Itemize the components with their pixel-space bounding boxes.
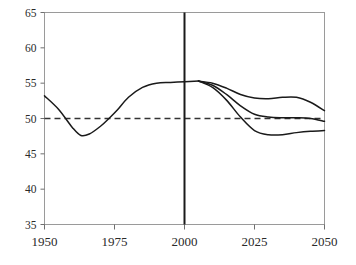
y-axis-tick-label: 40	[25, 183, 37, 195]
x-axis-tick-label: 2000	[172, 234, 198, 249]
y-axis-tick-label: 45	[25, 148, 37, 160]
y-axis-tick-label: 60	[25, 42, 37, 54]
x-axis-tick-label: 1950	[32, 234, 58, 249]
y-axis-tick-label: 65	[25, 7, 37, 19]
x-axis-tick-label: 2050	[312, 234, 338, 249]
y-axis-tick-label: 55	[25, 77, 37, 89]
y-axis-tick-label: 35	[25, 219, 37, 231]
chart-container: 35404550556065 19501975200020252050	[0, 0, 356, 265]
x-axis-tick-label: 2025	[242, 234, 268, 249]
y-axis-tick-label: 50	[25, 113, 37, 125]
line-chart: 35404550556065 19501975200020252050	[0, 0, 356, 265]
x-axis-tick-label: 1975	[102, 234, 128, 249]
